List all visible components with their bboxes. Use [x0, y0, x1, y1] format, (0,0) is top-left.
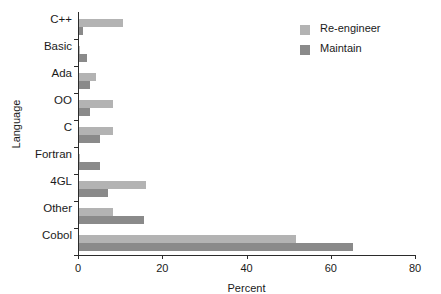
y-tick: [74, 39, 78, 40]
bar-maintain-other: [79, 216, 144, 224]
bar-chart: Language 020406080 C++BasicAdaOOCFortran…: [0, 0, 441, 294]
bar-maintain-cobol: [79, 243, 353, 251]
category-label-fortran: Fortran: [0, 148, 72, 160]
bar-re-engineer-basic: [79, 46, 80, 54]
plot-area: 020406080 C++BasicAdaOOCFortran4GLOtherC…: [78, 12, 415, 255]
bar-maintain-oo: [79, 108, 90, 116]
bar-maintain-4gl: [79, 189, 108, 197]
category-label-cobol: Cobol: [0, 229, 72, 241]
bar-re-engineer-oo: [79, 100, 113, 108]
category-label-other: Other: [0, 202, 72, 214]
x-tick-label-60: 60: [311, 262, 351, 274]
x-axis-title: Percent: [78, 282, 415, 294]
bar-maintain-c-: [79, 27, 83, 35]
bar-re-engineer-other: [79, 208, 113, 216]
legend-label-maintain: Maintain: [320, 42, 362, 54]
y-tick: [74, 201, 78, 202]
y-tick: [74, 66, 78, 67]
x-tick-20: [162, 255, 163, 259]
bar-maintain-c: [79, 135, 100, 143]
x-tick-60: [331, 255, 332, 259]
y-tick: [74, 228, 78, 229]
bar-maintain-fortran: [79, 162, 100, 170]
y-tick: [74, 120, 78, 121]
category-label-c: C: [0, 121, 72, 133]
x-tick-label-40: 40: [227, 262, 267, 274]
bar-re-engineer-ada: [79, 73, 96, 81]
x-tick-40: [247, 255, 248, 259]
x-tick-label-20: 20: [142, 262, 182, 274]
bar-re-engineer-fortran: [79, 154, 80, 162]
bar-maintain-basic: [79, 54, 87, 62]
bar-re-engineer-c-: [79, 19, 123, 27]
x-tick-label-0: 0: [58, 262, 98, 274]
x-tick-0: [78, 255, 79, 259]
legend-swatch-re-engineer: [300, 25, 310, 35]
category-label-basic: Basic: [0, 40, 72, 52]
x-tick-80: [415, 255, 416, 259]
y-tick: [74, 93, 78, 94]
bar-re-engineer-4gl: [79, 181, 146, 189]
category-label-4gl: 4GL: [0, 175, 72, 187]
bar-maintain-ada: [79, 81, 90, 89]
x-tick-label-80: 80: [395, 262, 435, 274]
category-label-oo: OO: [0, 94, 72, 106]
legend-swatch-maintain: [300, 45, 310, 55]
category-label-ada: Ada: [0, 67, 72, 79]
bar-re-engineer-cobol: [79, 235, 296, 243]
y-tick: [74, 174, 78, 175]
category-label-c-: C++: [0, 13, 72, 25]
legend-label-re-engineer: Re-engineer: [320, 22, 381, 34]
y-tick: [74, 147, 78, 148]
bar-re-engineer-c: [79, 127, 113, 135]
